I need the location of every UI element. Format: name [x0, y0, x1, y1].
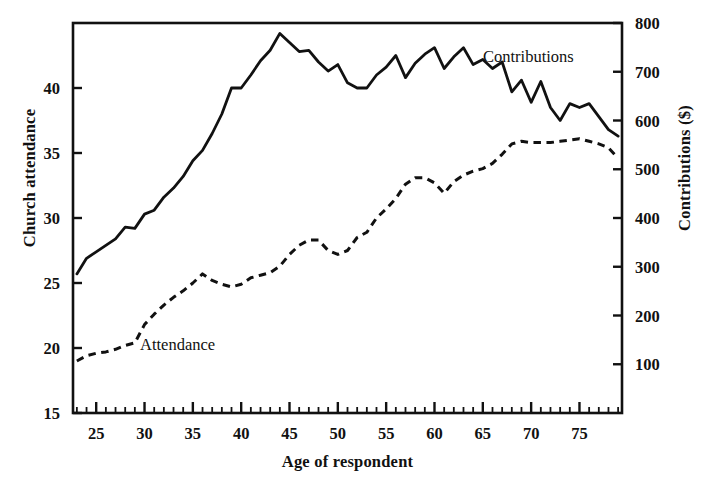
y-axis-right-tick-labels: 100200300400500600700800 — [635, 14, 660, 374]
y-axis-left-title: Church attendance — [20, 78, 40, 278]
tick-label: 65 — [475, 424, 492, 443]
tick-label: 70 — [523, 424, 540, 443]
tick-label: 700 — [635, 63, 660, 82]
y-axis-right-title: Contributions ($) — [675, 53, 695, 283]
series-annotation-attendance: Attendance — [140, 335, 215, 355]
tick-label: 300 — [635, 258, 660, 277]
tick-label: 30 — [136, 424, 153, 443]
x-axis-ticks — [96, 402, 579, 413]
y-axis-right-ticks — [613, 23, 622, 364]
tick-label: 400 — [635, 209, 660, 228]
series-line-contributions — [77, 33, 618, 274]
series-annotation-contributions: Contributions — [483, 47, 574, 67]
tick-label: 35 — [44, 144, 61, 163]
tick-label: 55 — [378, 424, 395, 443]
x-axis-tick-labels: 2530354045505560657075 — [88, 424, 588, 443]
y-axis-left-tick-labels: 152025303540 — [44, 79, 61, 423]
tick-label: 200 — [635, 307, 660, 326]
tick-label: 45 — [281, 424, 298, 443]
y-axis-left-ticks — [73, 88, 82, 413]
tick-label: 35 — [185, 424, 202, 443]
tick-label: 60 — [426, 424, 443, 443]
tick-label: 800 — [635, 14, 660, 33]
chart-figure: 152025303540 100200300400500600700800 25… — [0, 0, 709, 490]
x-axis-title: Age of respondent — [73, 452, 622, 472]
tick-label: 30 — [44, 209, 61, 228]
tick-label: 40 — [44, 79, 61, 98]
tick-label: 15 — [44, 404, 61, 423]
tick-label: 20 — [44, 339, 61, 358]
tick-label: 100 — [635, 355, 660, 374]
tick-label: 40 — [233, 424, 250, 443]
tick-label: 25 — [88, 424, 105, 443]
tick-label: 50 — [330, 424, 347, 443]
chart-plot-area: 152025303540 100200300400500600700800 25… — [0, 0, 709, 490]
tick-label: 25 — [44, 274, 61, 293]
tick-label: 500 — [635, 160, 660, 179]
series-line-attendance — [77, 139, 618, 361]
tick-label: 600 — [635, 112, 660, 131]
tick-label: 75 — [571, 424, 588, 443]
